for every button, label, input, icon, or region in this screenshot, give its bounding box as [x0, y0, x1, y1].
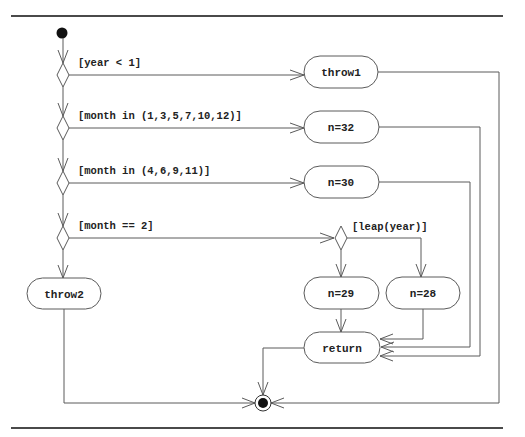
action-n28: n=28: [386, 277, 460, 309]
action-return: return: [304, 332, 380, 363]
guard-month-30: [month in (4,6,9,11)]: [78, 165, 210, 177]
action-return-label: return: [322, 343, 362, 355]
edge-n32-return: [379, 127, 480, 356]
action-throw1: throw1: [304, 56, 378, 88]
final-node: [255, 395, 271, 411]
edge-n30-return: [379, 182, 470, 347]
decision-month30: [57, 171, 69, 195]
edge-throw2-final: [64, 309, 255, 403]
action-throw1-label: throw1: [321, 67, 361, 79]
guard-year-lt-1: [year < 1]: [78, 57, 141, 69]
edge-leap-n28: [347, 238, 421, 277]
guard-month-feb: [month == 2]: [78, 220, 154, 232]
action-n30: n=30: [304, 166, 379, 198]
action-throw2: throw2: [27, 278, 101, 309]
action-n28-label: n=28: [410, 288, 437, 300]
action-throw2-label: throw2: [44, 289, 84, 301]
action-n32: n=32: [304, 111, 379, 143]
action-n29: n=29: [304, 277, 379, 309]
activity-diagram: [year < 1] [month in (1,3,5,7,10,12)] [m…: [0, 0, 525, 437]
decision-month31: [57, 116, 69, 140]
guard-month-31: [month in (1,3,5,7,10,12)]: [78, 110, 242, 122]
decision-leap: [335, 226, 347, 250]
guard-leap-year: [leap(year)]: [352, 221, 428, 233]
action-n30-label: n=30: [328, 177, 354, 189]
action-n29-label: n=29: [328, 288, 354, 300]
decision-feb: [57, 226, 69, 250]
decision-year: [57, 63, 69, 87]
edge-return-final: [263, 348, 304, 395]
action-n32-label: n=32: [328, 122, 354, 134]
edge-n28-return: [380, 309, 423, 339]
initial-node: [57, 28, 68, 39]
